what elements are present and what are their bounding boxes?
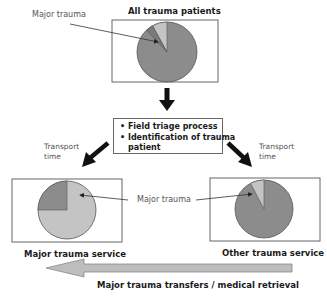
middle-callout-label: Major trauma [137,195,191,204]
down-arrow [159,88,175,111]
left-diagonal-arrow [82,143,108,167]
top-callout-label: Major trauma [32,10,86,19]
right-transport-label: Transport time [259,142,294,162]
left-pie-chart [38,181,96,239]
left-caption: Major trauma service [24,249,126,259]
right-diagonal-arrow [228,143,252,167]
top-pie-chart [137,22,197,82]
left-transport-label: Transport time [44,142,79,162]
triage-item-1: • Field triage process [120,122,216,133]
transfer-label: Major trauma transfers / medical retriev… [97,280,299,290]
transfer-arrow [46,259,292,277]
right-caption: Other trauma service [222,248,324,258]
triage-box: • Field triage process • Identification … [113,118,223,154]
right-pie-chart [235,180,293,238]
top-title: All trauma patients [128,6,221,16]
triage-item-2: • Identification of trauma [120,133,216,144]
triage-item-3: patient [120,143,216,154]
